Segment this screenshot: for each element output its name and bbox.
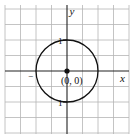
x-axis-label: x (119, 72, 125, 84)
y-axis-label: y (69, 5, 75, 17)
coordinate-plane: y x 1 1 − (0, 0) (0, 0, 133, 140)
x-tick-left: − (28, 71, 33, 81)
y-tick-top: 1 (58, 36, 63, 46)
origin-label: (0, 0) (61, 75, 83, 87)
origin-point (64, 68, 69, 73)
y-tick-bottom: 1 (58, 98, 63, 108)
